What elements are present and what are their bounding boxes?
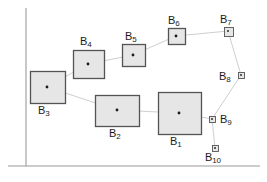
center-dot-b8 [240, 74, 242, 76]
box-label-b6: B6 [168, 15, 180, 27]
center-dot-b1 [178, 112, 181, 115]
box-label-b7: B7 [220, 14, 232, 26]
box-label-b2: B2 [109, 128, 121, 140]
center-dot-b5 [132, 54, 135, 57]
box-label-subscript-b8: 8 [226, 75, 230, 84]
box-label-subscript-b3: 3 [45, 109, 49, 118]
bounding-box-scatter-figure: B1B2B3B4B5B6B7B8B9B10 [0, 0, 267, 182]
link-b9-b10 [212, 119, 215, 148]
box-label-subscript-b7: 7 [227, 18, 231, 27]
box-label-b10: B10 [205, 152, 221, 164]
box-label-b3: B3 [38, 105, 50, 117]
box-label-subscript-b10: 10 [212, 156, 221, 165]
center-dot-b2 [116, 109, 119, 112]
box-label-subscript-b4: 4 [87, 40, 91, 49]
link-b7-b8 [228, 31, 241, 75]
center-dot-b6 [175, 35, 178, 38]
center-dot-b3 [46, 86, 49, 89]
box-label-subscript-b2: 2 [116, 132, 120, 141]
box-label-subscript-b6: 6 [175, 19, 179, 28]
center-dot-b9 [211, 118, 213, 120]
box-label-subscript-b5: 5 [132, 35, 136, 44]
box-label-b5: B5 [125, 31, 137, 43]
box-label-subscript-b9: 9 [227, 118, 231, 127]
box-group [31, 28, 245, 152]
box-label-b4: B4 [80, 36, 92, 48]
center-dot-b10 [214, 147, 216, 149]
bounding-box-b7[interactable] [225, 28, 234, 37]
figure-canvas [0, 0, 267, 182]
center-dot-b7 [227, 30, 229, 32]
box-label-subscript-b1: 1 [177, 140, 181, 149]
box-label-b9: B9 [220, 114, 232, 126]
box-label-b8: B8 [219, 71, 231, 83]
center-dot-b4 [87, 63, 90, 66]
box-label-b1: B1 [170, 136, 182, 148]
